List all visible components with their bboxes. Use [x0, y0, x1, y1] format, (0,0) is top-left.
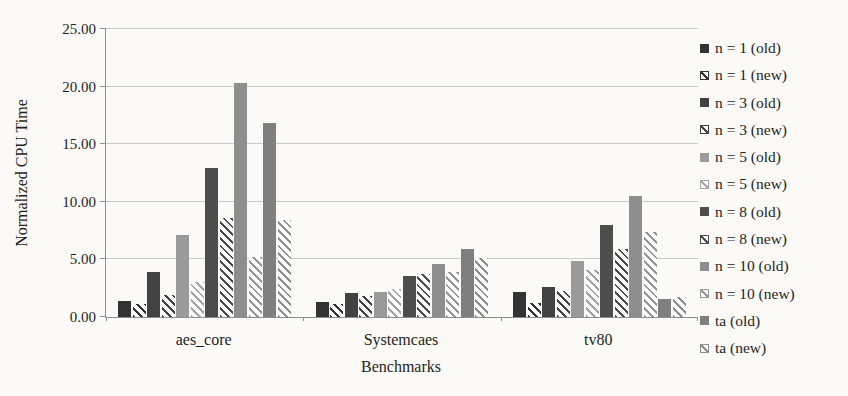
bar-chart-figure: Normalized CPU Time 0.005.0010.0015.0020…	[0, 0, 848, 396]
category-label: Systemcaes	[302, 330, 499, 350]
bar	[571, 261, 584, 317]
x-tick	[106, 317, 107, 321]
bar	[432, 264, 445, 317]
x-tick	[501, 317, 502, 321]
bar	[644, 232, 657, 317]
y-tick-label: 10.00	[34, 193, 96, 211]
bar	[220, 218, 233, 317]
legend-marker-icon	[700, 207, 709, 216]
bar	[263, 123, 276, 317]
legend-item: n = 5 (old)	[700, 148, 795, 166]
bar	[133, 304, 146, 317]
bar	[513, 292, 526, 317]
legend-label: ta (old)	[715, 312, 760, 330]
legend-marker-icon	[700, 71, 709, 80]
y-tick-label: 5.00	[34, 250, 96, 268]
bar	[118, 301, 131, 317]
legend-label: n = 5 (new)	[715, 175, 787, 193]
bar-group-Systemcaes	[303, 29, 500, 317]
legend-item: n = 10 (new)	[700, 285, 795, 303]
bar	[162, 295, 175, 317]
bar-group-aes_core	[106, 29, 303, 317]
legend-label: n = 5 (old)	[715, 148, 781, 166]
legend-item: n = 8 (old)	[700, 203, 795, 221]
bar	[542, 287, 555, 317]
legend-item: n = 5 (new)	[700, 175, 795, 193]
category-label: tv80	[500, 330, 697, 350]
bar	[234, 83, 247, 317]
legend-marker-icon	[700, 344, 709, 353]
legend-marker-icon	[700, 180, 709, 189]
legend-label: n = 8 (new)	[715, 230, 787, 248]
x-category-labels: aes_coreSystemcaestv80	[105, 330, 697, 350]
x-axis-title: Benchmarks	[105, 358, 697, 376]
legend-item: n = 1 (old)	[700, 39, 795, 57]
x-tick	[697, 317, 698, 321]
legend-marker-icon	[700, 262, 709, 271]
y-tick-label: 0.00	[34, 308, 96, 326]
bar	[345, 293, 358, 317]
bar	[278, 220, 291, 317]
legend-marker-icon	[700, 44, 709, 53]
bar	[147, 272, 160, 317]
legend-marker-icon	[700, 125, 709, 134]
bar	[461, 249, 474, 317]
bar-groups	[106, 29, 698, 317]
legend: n = 1 (old)n = 1 (new)n = 3 (old)n = 3 (…	[700, 39, 795, 357]
legend-item: ta (old)	[700, 312, 795, 330]
bar	[205, 168, 218, 317]
legend-marker-icon	[700, 98, 709, 107]
legend-marker-icon	[700, 289, 709, 298]
bar	[359, 296, 372, 317]
bar	[388, 289, 401, 317]
legend-marker-icon	[700, 235, 709, 244]
legend-label: n = 1 (new)	[715, 66, 787, 84]
bar	[330, 304, 343, 317]
legend-label: ta (new)	[715, 339, 766, 357]
category-label: aes_core	[105, 330, 302, 350]
plot-area: 0.005.0010.0015.0020.0025.00	[105, 29, 698, 318]
legend-item: n = 3 (old)	[700, 94, 795, 112]
legend-item: n = 3 (new)	[700, 121, 795, 139]
legend-label: n = 3 (old)	[715, 94, 781, 112]
bar	[528, 303, 541, 317]
y-tick-label: 20.00	[34, 78, 96, 96]
bar	[600, 225, 613, 317]
x-tick	[303, 317, 304, 321]
legend-label: n = 3 (new)	[715, 121, 787, 139]
bar	[374, 292, 387, 317]
legend-item: n = 10 (old)	[700, 257, 795, 275]
bar	[615, 249, 628, 317]
bar	[475, 258, 488, 317]
bar	[249, 257, 262, 317]
legend-label: n = 1 (old)	[715, 39, 781, 57]
bar	[316, 302, 329, 317]
legend-marker-icon	[700, 153, 709, 162]
bar	[557, 291, 570, 317]
bar	[629, 196, 642, 317]
bar	[191, 282, 204, 317]
bar	[586, 270, 599, 317]
bar	[176, 235, 189, 317]
legend-item: ta (new)	[700, 339, 795, 357]
bar-group-tv80	[501, 29, 698, 317]
bar	[417, 274, 430, 317]
legend-label: n = 10 (new)	[715, 285, 795, 303]
bar	[403, 276, 416, 317]
y-axis-title: Normalized CPU Time	[13, 99, 31, 247]
legend-item: n = 8 (new)	[700, 230, 795, 248]
y-tick-label: 25.00	[34, 20, 96, 38]
legend-marker-icon	[700, 316, 709, 325]
y-tick-label: 15.00	[34, 135, 96, 153]
bar	[658, 299, 671, 317]
legend-item: n = 1 (new)	[700, 66, 795, 84]
bar	[673, 297, 686, 317]
bar	[446, 272, 459, 317]
legend-label: n = 8 (old)	[715, 203, 781, 221]
legend-label: n = 10 (old)	[715, 257, 789, 275]
